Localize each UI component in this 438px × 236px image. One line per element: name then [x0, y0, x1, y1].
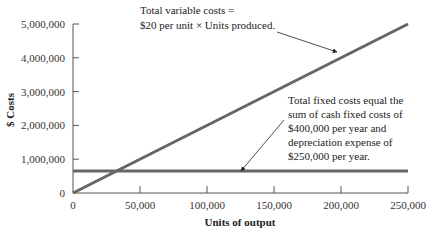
y-tick-label: 1,000,000: [21, 153, 66, 165]
y-tick-label: 3,000,000: [21, 86, 66, 98]
x-tick-label: 50,000: [125, 199, 156, 211]
y-tick-label: 0: [60, 187, 66, 199]
fixed-cost-annotation: Total fixed costs equal the sum of cash …: [288, 94, 406, 162]
variable-cost-annotation: Total variable costs = $20 per unit × Un…: [140, 4, 275, 31]
y-axis-title: $ Costs: [4, 92, 16, 127]
y-tick-label: 2,000,000: [21, 119, 66, 131]
fixed-annotation-arrow: [241, 120, 284, 171]
y-ticks: 01,000,0002,000,0003,000,0004,000,0005,0…: [21, 18, 79, 199]
x-tick-label: 0: [70, 199, 76, 211]
y-tick-label: 5,000,000: [21, 18, 66, 30]
variable-annotation-arrow: [277, 32, 337, 52]
y-tick-label: 4,000,000: [21, 52, 66, 64]
cost-chart: 01,000,0002,000,0003,000,0004,000,0005,0…: [0, 0, 438, 236]
x-tick-label: 100,000: [189, 199, 225, 211]
x-axis-title: Units of output: [205, 216, 276, 228]
x-tick-label: 250,000: [390, 199, 426, 211]
x-tick-label: 200,000: [323, 199, 359, 211]
x-tick-label: 150,000: [256, 199, 292, 211]
x-ticks: 050,000100,000150,000200,000250,000: [70, 186, 426, 211]
